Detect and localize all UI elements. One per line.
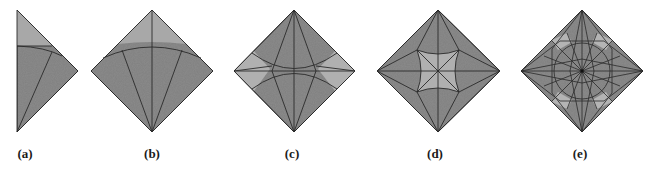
panel-d-diagram [377, 10, 500, 132]
panel-a-diagram [17, 10, 78, 132]
origami-crease-figure [0, 0, 662, 174]
panel-e-label: (e) [573, 146, 587, 162]
panel-b-diagram [91, 10, 213, 132]
panel-c-diagram [234, 10, 355, 132]
panel-a-label: (a) [17, 146, 32, 162]
panel-d-label: (d) [427, 146, 443, 162]
panel-b-label: (b) [144, 146, 160, 162]
panel-c-label: (c) [285, 146, 299, 162]
panel-e-diagram [521, 10, 643, 132]
